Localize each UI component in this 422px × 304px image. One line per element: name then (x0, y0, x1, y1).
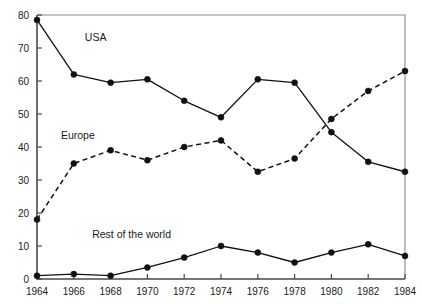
data-point-europe (181, 144, 187, 150)
data-point-europe (218, 137, 224, 143)
x-tick-label: 1976 (247, 286, 270, 297)
data-point-europe (144, 157, 150, 163)
data-point-rest-of-the-world (218, 243, 224, 249)
data-point-usa (328, 129, 334, 135)
data-point-usa (144, 76, 150, 82)
data-point-europe (108, 147, 114, 153)
data-point-usa (402, 169, 408, 175)
line-chart: 01020304050607080 1964196619681970197219… (0, 0, 422, 304)
y-tick-label: 70 (18, 43, 30, 54)
y-tick-label: 30 (18, 175, 30, 186)
y-tick-label: 40 (18, 142, 30, 153)
chart-svg: 01020304050607080 1964196619681970197219… (0, 0, 422, 304)
y-tick-label: 60 (18, 76, 30, 87)
data-point-usa (292, 80, 298, 86)
x-tick-label: 1980 (320, 286, 343, 297)
data-point-europe (71, 161, 77, 167)
x-tick-label: 1964 (26, 286, 49, 297)
series-label-usa: USA (85, 31, 107, 43)
data-point-usa (218, 114, 224, 120)
data-point-rest-of-the-world (108, 273, 114, 279)
data-point-europe (292, 156, 298, 162)
data-series-group (34, 17, 408, 279)
x-tick-label: 1978 (283, 286, 306, 297)
x-axis-tick-labels: 1964196619681970197219741976197819801982… (26, 286, 417, 297)
data-point-usa (181, 98, 187, 104)
x-tick-label: 1982 (357, 286, 380, 297)
data-point-europe (328, 116, 334, 122)
y-axis-tick-labels: 01020304050607080 (18, 10, 30, 285)
data-point-usa (365, 159, 371, 165)
x-tick-label: 1974 (210, 286, 233, 297)
data-point-europe (34, 217, 40, 223)
x-tick-label: 1968 (99, 286, 122, 297)
series-label-europe: Europe (61, 129, 95, 141)
data-point-rest-of-the-world (144, 264, 150, 270)
series-annotation-labels: USAEuropeRest of the world (61, 31, 171, 239)
x-tick-label: 1970 (136, 286, 159, 297)
x-tick-label: 1972 (173, 286, 196, 297)
data-point-europe (255, 169, 261, 175)
data-point-usa (108, 80, 114, 86)
data-point-rest-of-the-world (292, 260, 298, 266)
series-line-europe (37, 71, 405, 220)
data-point-rest-of-the-world (181, 255, 187, 261)
data-point-europe (365, 88, 371, 94)
x-tick-label: 1984 (394, 286, 417, 297)
data-point-rest-of-the-world (328, 250, 334, 256)
data-point-rest-of-the-world (255, 250, 261, 256)
data-point-usa (255, 76, 261, 82)
series-label-rest-of-the-world: Rest of the world (92, 228, 171, 240)
data-point-rest-of-the-world (34, 273, 40, 279)
data-point-rest-of-the-world (402, 253, 408, 259)
data-point-usa (34, 17, 40, 23)
y-tick-label: 20 (18, 208, 30, 219)
y-tick-label: 0 (23, 274, 29, 285)
data-point-rest-of-the-world (365, 241, 371, 247)
data-point-europe (402, 68, 408, 74)
x-tick-label: 1966 (63, 286, 86, 297)
data-point-usa (71, 71, 77, 77)
y-tick-label: 80 (18, 10, 30, 21)
data-point-rest-of-the-world (71, 271, 77, 277)
y-tick-label: 50 (18, 109, 30, 120)
y-tick-label: 10 (18, 241, 30, 252)
